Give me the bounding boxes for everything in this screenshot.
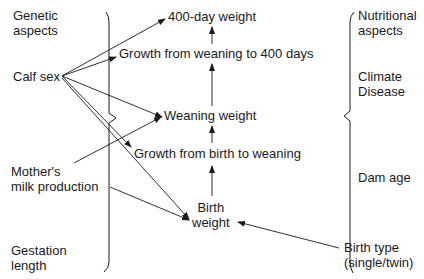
edge-milk-birthweight bbox=[110, 187, 189, 220]
label-climate-disease: Climate Disease bbox=[358, 69, 405, 99]
edge-calfsex-growth-wean400 bbox=[62, 57, 116, 76]
node-growth-birth-weaning: Growth from birth to weaning bbox=[134, 146, 301, 161]
label-nutritional-aspects: Nutritional aspects bbox=[358, 8, 417, 38]
label-gestation-length: Gestation length bbox=[11, 243, 67, 273]
label-genetic-aspects: Genetic aspects bbox=[13, 8, 58, 38]
label-calf-sex: Calf sex bbox=[13, 69, 60, 84]
edge-calfsex-weaning bbox=[62, 76, 162, 117]
label-birth-type: Birth type (single/twin) bbox=[344, 240, 413, 270]
label-dam-age: Dam age bbox=[358, 170, 411, 185]
node-growth-weaning-400: Growth from weaning to 400 days bbox=[119, 46, 313, 61]
node-weaning-weight: Weaning weight bbox=[164, 108, 256, 123]
node-birth-weight: Birth weight bbox=[192, 200, 230, 230]
right-brace bbox=[344, 12, 354, 273]
node-400-day-weight: 400-day weight bbox=[168, 9, 256, 24]
label-mothers-milk: Mother's milk production bbox=[11, 164, 98, 194]
edge-birthtype-birthweight bbox=[238, 222, 339, 248]
edge-calfsex-growth-birthwean bbox=[62, 76, 131, 147]
diagram-canvas bbox=[0, 0, 424, 279]
